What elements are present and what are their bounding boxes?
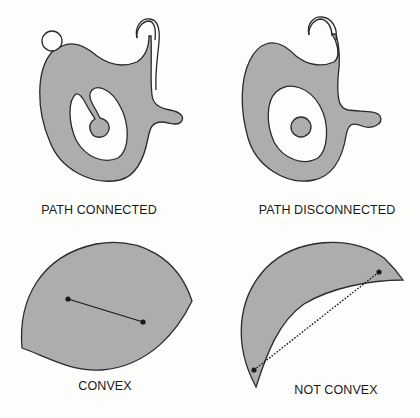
not-convex-shape bbox=[241, 242, 403, 387]
not-convex-point-b bbox=[376, 269, 381, 274]
caption-path-disconnected: PATH DISCONNECTED bbox=[259, 203, 396, 217]
convex-point-a bbox=[65, 296, 70, 301]
caption-convex: CONVEX bbox=[78, 379, 131, 393]
caption-path-connected: PATH CONNECTED bbox=[41, 203, 157, 217]
path-disconnected-shape bbox=[242, 17, 381, 181]
caption-not-convex: NOT CONVEX bbox=[294, 383, 377, 397]
convex-shape bbox=[22, 242, 192, 370]
convex-point-b bbox=[140, 319, 145, 324]
path-connected-shape bbox=[40, 19, 183, 181]
not-convex-point-a bbox=[251, 367, 256, 372]
topology-figure: PATH CONNECTED PATH DISCONNECTED CONVEX … bbox=[0, 0, 420, 418]
